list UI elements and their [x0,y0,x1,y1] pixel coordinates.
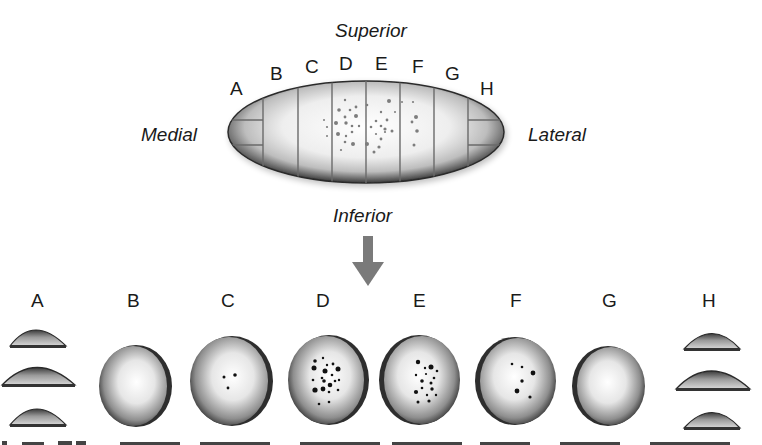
disc-c [190,336,273,426]
disc-e [379,335,460,425]
bottom-label-e: E [413,290,426,312]
section-h-end-caps [676,334,750,431]
disc-g [572,346,645,426]
end-cap-1 [10,330,66,348]
bottom-label-d: D [316,290,330,312]
end-cap-2 [2,368,75,388]
bottom-label-a: A [31,290,44,312]
disc-b [99,345,172,427]
end-cap-1 [684,334,740,352]
medial-label: Medial [141,124,197,146]
disc-f [475,337,556,425]
superior-label: Superior [335,20,407,42]
disc-d [288,335,369,425]
top-label-d: D [339,53,353,75]
end-cap-3 [10,409,66,427]
top-label-e: E [375,53,388,75]
caption-cutoff-glyphs [0,437,762,445]
top-label-a: A [230,78,243,100]
caption-cutoff [0,437,762,445]
bottom-label-c: C [221,290,235,312]
bottom-label-g: G [602,290,617,312]
top-label-f: F [412,56,424,78]
top-label-h: H [480,78,494,100]
top-label-b: B [270,63,283,85]
lateral-label: Lateral [528,124,586,146]
bottom-label-b: B [127,290,140,312]
top-label-c: C [305,56,319,78]
bottom-label-h: H [702,290,716,312]
down-arrow-icon [352,236,384,286]
end-cap-2 [676,371,750,391]
bottom-label-f: F [510,290,522,312]
section-a-end-caps [2,330,75,427]
inferior-label: Inferior [333,205,392,227]
end-cap-3 [684,413,740,431]
top-label-g: G [445,63,460,85]
